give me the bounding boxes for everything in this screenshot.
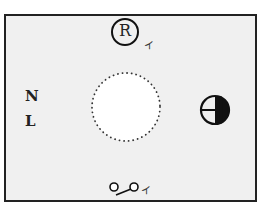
- switch-annotation: イ: [141, 182, 151, 197]
- half-filled-outlet-icon: [199, 94, 231, 126]
- label-l: L: [25, 112, 36, 130]
- top-circle-letter: R: [119, 21, 131, 40]
- top-annotation: イ: [144, 37, 154, 52]
- label-n: N: [25, 87, 39, 105]
- dotted-circle-shape: [89, 70, 163, 144]
